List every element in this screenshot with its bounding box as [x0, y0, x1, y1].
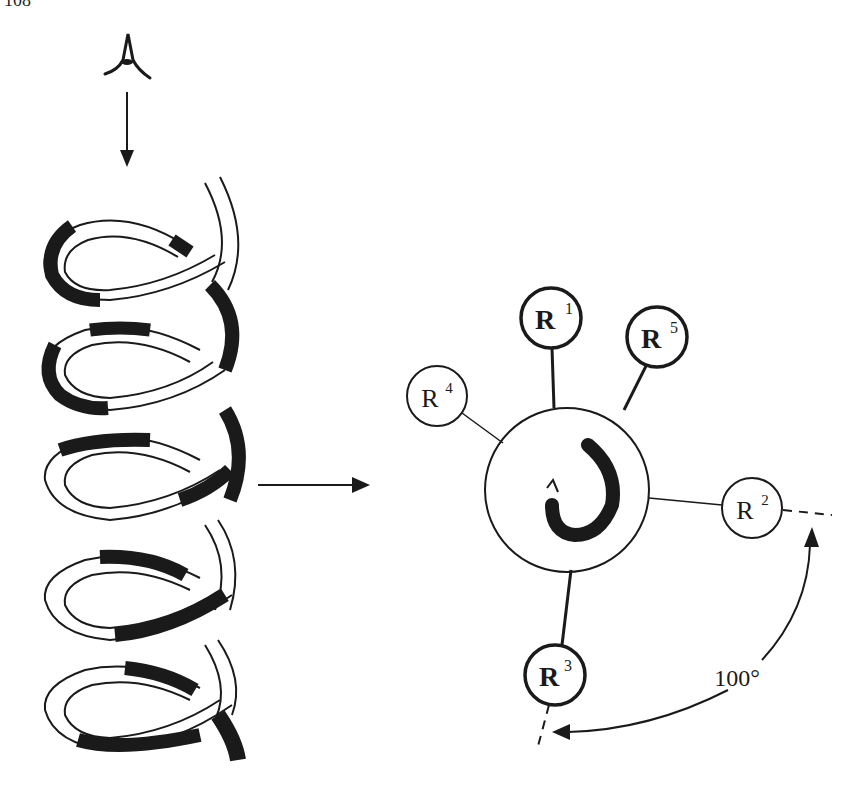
residue-r1: R 1: [521, 288, 581, 348]
svg-text:R: R: [539, 661, 560, 692]
svg-text:R: R: [736, 496, 754, 525]
residue-r5: R 5: [627, 307, 687, 367]
spoke-r4: [462, 413, 503, 443]
svg-text:5: 5: [670, 319, 678, 336]
down-arrow-icon: [120, 92, 134, 167]
svg-text:3: 3: [564, 657, 572, 674]
right-arrow-icon: [258, 477, 370, 493]
helix-turn-2: [45, 327, 239, 500]
svg-text:R: R: [421, 384, 439, 413]
angle-label: 100°: [714, 665, 760, 691]
svg-text:1: 1: [565, 300, 573, 317]
svg-text:R: R: [641, 323, 662, 354]
helix-turn-5: [45, 667, 238, 760]
spoke-r3: [562, 570, 571, 645]
wheel-core: [485, 408, 649, 572]
r3-reference-line: [537, 705, 549, 750]
residue-r3: R 3: [525, 645, 585, 705]
svg-text:R: R: [535, 304, 556, 335]
residue-r2: R 2: [722, 478, 782, 538]
alpha-helix: [44, 177, 238, 760]
r2-reference-line: [783, 510, 832, 515]
svg-text:2: 2: [761, 492, 769, 508]
spoke-r5: [624, 366, 646, 410]
svg-text:4: 4: [445, 380, 453, 396]
spoke-r2: [649, 498, 722, 505]
residue-r4: R 4: [407, 366, 467, 426]
helix-turn-1: [44, 221, 232, 371]
spoke-r1: [552, 348, 554, 408]
figure: R 1 R 5 R 4 R 2 R 3: [0, 0, 867, 812]
eye-icon: [105, 34, 150, 78]
helical-wheel: R 1 R 5 R 4 R 2 R 3: [407, 288, 832, 750]
